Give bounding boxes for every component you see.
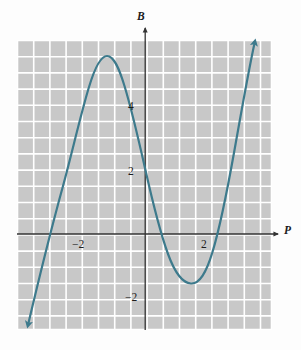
axes-and-curve [0,0,301,350]
x-axis-label: P [284,224,291,236]
graph-figure: B P 4 2 −2 −2 2 [0,0,301,350]
function-curve [28,42,255,327]
x-tick-label-2: 2 [201,238,207,250]
y-tick-label-2: 2 [128,165,134,177]
y-axis-label: B [137,10,145,22]
y-tick-label-neg2: −2 [125,291,137,303]
y-tick-label-4: 4 [128,100,134,112]
x-tick-label-neg2: −2 [72,238,84,250]
